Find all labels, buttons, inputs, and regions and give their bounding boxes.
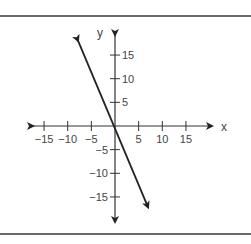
y-tick-label: 15 — [122, 49, 134, 61]
y-tick-label: −15 — [89, 191, 108, 203]
x-tick-label: −10 — [58, 133, 77, 145]
x-tick-label: 15 — [180, 133, 192, 145]
y-tick-label: −10 — [89, 167, 108, 179]
data-line — [78, 41, 148, 207]
y-tick-label: −5 — [95, 144, 108, 156]
x-tick-label: 5 — [136, 133, 142, 145]
chart-canvas: −15−10−55101515105−5−10−15 x y — [0, 0, 251, 244]
data-series — [78, 41, 148, 207]
axes — [33, 35, 212, 222]
x-tick-label: −15 — [35, 133, 54, 145]
x-tick-label: 10 — [156, 133, 168, 145]
y-tick-label: 10 — [122, 73, 134, 85]
y-tick-label: 5 — [122, 96, 128, 108]
y-axis-label: y — [97, 26, 103, 40]
x-axis-label: x — [221, 120, 227, 134]
